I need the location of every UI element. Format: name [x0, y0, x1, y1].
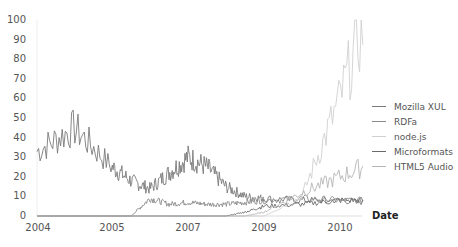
legend-swatch: [372, 166, 386, 167]
legend: Mozilla XUL RDFa node.js Microformats HT…: [372, 99, 453, 174]
legend-item: node.js: [372, 129, 453, 144]
series-line: [37, 20, 363, 216]
x-tick: 2005: [99, 222, 124, 233]
legend-item: Mozilla XUL: [372, 99, 453, 114]
legend-label: HTML5 Audio: [394, 162, 453, 172]
legend-label: Microformats: [394, 147, 453, 157]
series-lines: [37, 20, 363, 216]
legend-item: Microformats: [372, 144, 453, 159]
legend-swatch: [372, 151, 386, 152]
legend-label: RDFa: [394, 117, 417, 127]
legend-item: RDFa: [372, 114, 453, 129]
legend-swatch: [372, 121, 386, 122]
x-tick: 2007: [175, 222, 200, 233]
legend-item: HTML5 Audio: [372, 159, 453, 174]
legend-swatch: [372, 106, 386, 107]
legend-label: node.js: [394, 132, 427, 142]
series-line: [37, 110, 363, 205]
series-line: [37, 159, 363, 216]
x-tick: 2004: [25, 222, 50, 233]
x-tick: 2010: [327, 222, 352, 233]
legend-swatch: [372, 136, 386, 137]
x-axis-title: Date: [372, 210, 399, 221]
series-line: [37, 195, 363, 216]
x-tick: 2009: [251, 222, 276, 233]
legend-label: Mozilla XUL: [394, 102, 446, 112]
